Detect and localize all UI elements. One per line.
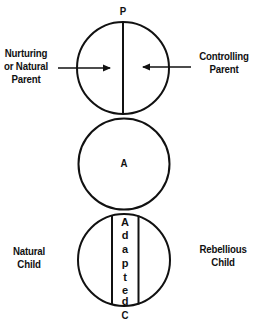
controlling-parent-line-2: Parent — [196, 63, 252, 76]
adapted-letter: d — [118, 295, 132, 307]
natural-child-label: Natural Child — [3, 245, 54, 271]
nurturing-parent-label: Nurturing or Natural Parent — [0, 47, 52, 86]
nurturing-parent-line-1: Nurturing — [0, 47, 52, 60]
natural-child-line-1: Natural — [3, 245, 54, 258]
parent-circle-label: P — [117, 5, 129, 18]
adapted-letter: A — [118, 216, 132, 228]
adapted-letter: a — [118, 243, 132, 255]
adapted-letter: t — [118, 271, 132, 283]
rebellious-child-line-1: Rebellious — [194, 243, 252, 256]
child-circle-label: C — [119, 309, 131, 322]
nurturing-parent-line-2: or Natural — [0, 60, 52, 73]
rebellious-child-label: Rebellious Child — [194, 243, 252, 269]
adult-circle-label: A — [118, 157, 130, 170]
natural-child-line-2: Child — [3, 258, 54, 271]
adapted-letter: p — [118, 257, 132, 269]
adapted-letter: d — [118, 229, 132, 241]
controlling-parent-label: Controlling Parent — [196, 50, 252, 76]
controlling-parent-line-1: Controlling — [196, 50, 252, 63]
nurturing-parent-line-3: Parent — [0, 73, 52, 86]
rebellious-child-line-2: Child — [194, 256, 252, 269]
